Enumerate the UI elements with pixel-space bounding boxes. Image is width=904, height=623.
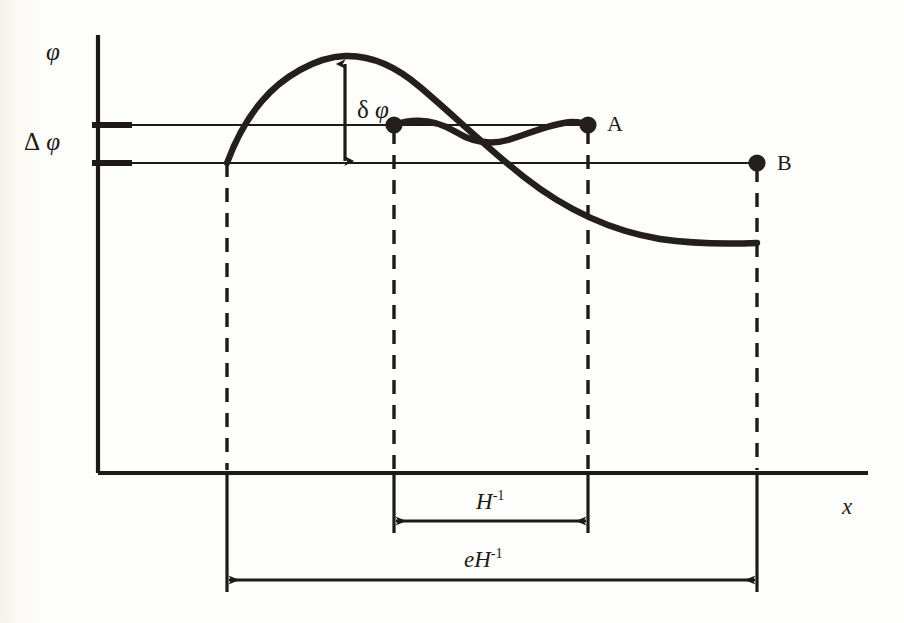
x-axis-label: x bbox=[842, 494, 852, 520]
fluctuation-label: δ φ bbox=[357, 96, 389, 124]
main-potential-curve bbox=[227, 56, 757, 244]
point-b-label: B bbox=[777, 150, 792, 176]
potential-diagram-svg bbox=[0, 0, 904, 623]
e-fold-scale-label: eH-1 bbox=[464, 545, 503, 573]
horizon-scale-exponent: -1 bbox=[493, 487, 505, 503]
fluctuation-phi-char: φ bbox=[375, 96, 389, 123]
e-fold-scale-exponent: -1 bbox=[491, 545, 503, 561]
figure-container: φ Δ φ δ φ A B x H-1 eH-1 bbox=[0, 0, 904, 623]
dashed-guides bbox=[227, 130, 757, 470]
axis-lines bbox=[98, 35, 868, 473]
e-fold-scale-base: eH bbox=[464, 547, 491, 572]
delta-phi-level-label: Δ φ bbox=[24, 128, 60, 156]
horizon-scale-label: H-1 bbox=[476, 487, 505, 515]
dot-point-b bbox=[748, 154, 765, 171]
delta-phi-greek-char: Δ bbox=[24, 128, 40, 155]
fluctuation-greek-char: δ bbox=[357, 96, 369, 123]
delta-phi-phi-char: φ bbox=[46, 128, 60, 155]
point-a-label: A bbox=[607, 111, 623, 137]
dot-point-a bbox=[579, 116, 596, 133]
y-axis-label: φ bbox=[46, 38, 60, 66]
horizon-scale-base: H bbox=[476, 489, 493, 514]
